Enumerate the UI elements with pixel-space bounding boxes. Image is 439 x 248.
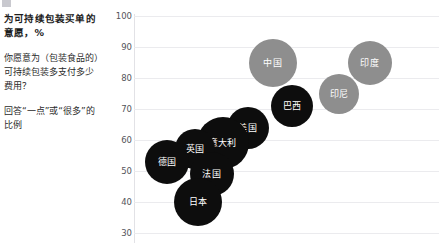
- y-axis-tick-label: 50: [108, 166, 132, 176]
- y-axis-labels: 10090807060504030: [108, 6, 132, 248]
- bubble-日本[interactable]: 日本: [174, 178, 222, 226]
- survey-note: 回答“一点”或“很多”的比例: [4, 104, 100, 132]
- bubble-印度[interactable]: 印度: [348, 41, 392, 85]
- square-marker-icon: [2, 0, 11, 7]
- y-axis-tick-label: 80: [108, 73, 132, 83]
- sidebar-text-column: 为可持续包装买单的意愿，% 你愿意为（包装食品的）可持续包装多支付多少费用？ 回…: [4, 12, 100, 132]
- bubble-chart: 10090807060504030 中国印度印尼巴西美国意大利英国德国法国日本: [108, 6, 439, 248]
- gridline: [134, 233, 439, 234]
- y-axis-tick-label: 40: [108, 197, 132, 207]
- bubble-中国[interactable]: 中国: [249, 39, 297, 87]
- y-axis-tick-label: 70: [108, 104, 132, 114]
- bubble-label: 巴西: [283, 101, 302, 111]
- gridline: [134, 16, 439, 17]
- chart-page: 为可持续包装买单的意愿，% 你愿意为（包装食品的）可持续包装多支付多少费用？ 回…: [0, 0, 439, 248]
- y-axis-tick-label: 100: [108, 11, 132, 21]
- bubble-巴西[interactable]: 巴西: [271, 85, 313, 127]
- bubble-label: 德国: [158, 157, 177, 167]
- bubble-label: 中国: [263, 58, 282, 68]
- bubble-label: 英国: [186, 144, 205, 154]
- bubble-label: 日本: [189, 197, 208, 207]
- bubble-印尼[interactable]: 印尼: [319, 74, 359, 114]
- bubble-label: 法国: [202, 169, 221, 179]
- y-axis-tick-label: 30: [108, 228, 132, 238]
- page-title: 为可持续包装买单的意愿，%: [4, 12, 100, 40]
- plot-area: 中国印度印尼巴西美国意大利英国德国法国日本: [134, 6, 439, 248]
- y-axis-line: [134, 14, 135, 243]
- bubble-德国[interactable]: 德国: [145, 140, 189, 184]
- bubble-label: 印尼: [330, 89, 349, 99]
- bubble-label: 印度: [360, 58, 379, 68]
- y-axis-tick-label: 60: [108, 135, 132, 145]
- survey-question: 你愿意为（包装食品的）可持续包装多支付多少费用？: [4, 51, 100, 93]
- y-axis-tick-label: 90: [108, 42, 132, 52]
